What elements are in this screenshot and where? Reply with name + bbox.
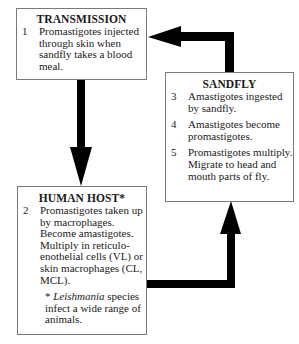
genus-name: Leishmania	[53, 290, 104, 302]
sandfly-title: SANDFLY	[166, 78, 293, 90]
sandfly-box: SANDFLY 3 Amastigotes ingested by sandfl…	[165, 72, 294, 202]
host-range-note: * Leishmania species infect a wide range…	[18, 291, 146, 326]
arrow-human-host-to-sandfly	[146, 201, 241, 288]
sandfly-step-3: 3 Amastigotes ingested by sandfly.	[166, 91, 293, 114]
step-text: Promastigotes taken up by macrophages. B…	[40, 205, 146, 286]
step-text: Amastigotes become promastigotes.	[188, 119, 293, 142]
human-host-title: HUMAN HOST*	[18, 192, 146, 204]
step-number: 1	[17, 26, 39, 72]
step-number: 5	[166, 147, 188, 182]
transmission-step-1: 1 Promastigotes injected through skin wh…	[17, 26, 146, 72]
human-host-box: HUMAN HOST* 2 Promastigotes taken up by …	[17, 186, 147, 335]
step-number: 3	[166, 91, 188, 114]
step-number: 4	[166, 119, 188, 142]
arrow-sandfly-to-transmission	[148, 26, 234, 73]
sandfly-step-4: 4 Amastigotes become promastigotes.	[166, 119, 293, 142]
transmission-title: TRANSMISSION	[17, 13, 146, 25]
arrow-transmission-to-human-host	[70, 79, 92, 186]
step-text: Amastigotes ingested by sandfly.	[188, 91, 293, 114]
note-asterisk: *	[45, 290, 53, 302]
step-number: 2	[18, 205, 40, 286]
sandfly-step-5: 5 Promastigotes multiply. Migrate to hea…	[166, 147, 293, 182]
step-text: Promastigotes injected through skin when…	[39, 26, 146, 72]
step-text: Promastigotes multiply. Migrate to head …	[188, 147, 293, 182]
transmission-box: TRANSMISSION 1 Promastigotes injected th…	[16, 8, 147, 80]
human-host-step-2: 2 Promastigotes taken up by macrophages.…	[18, 205, 146, 286]
